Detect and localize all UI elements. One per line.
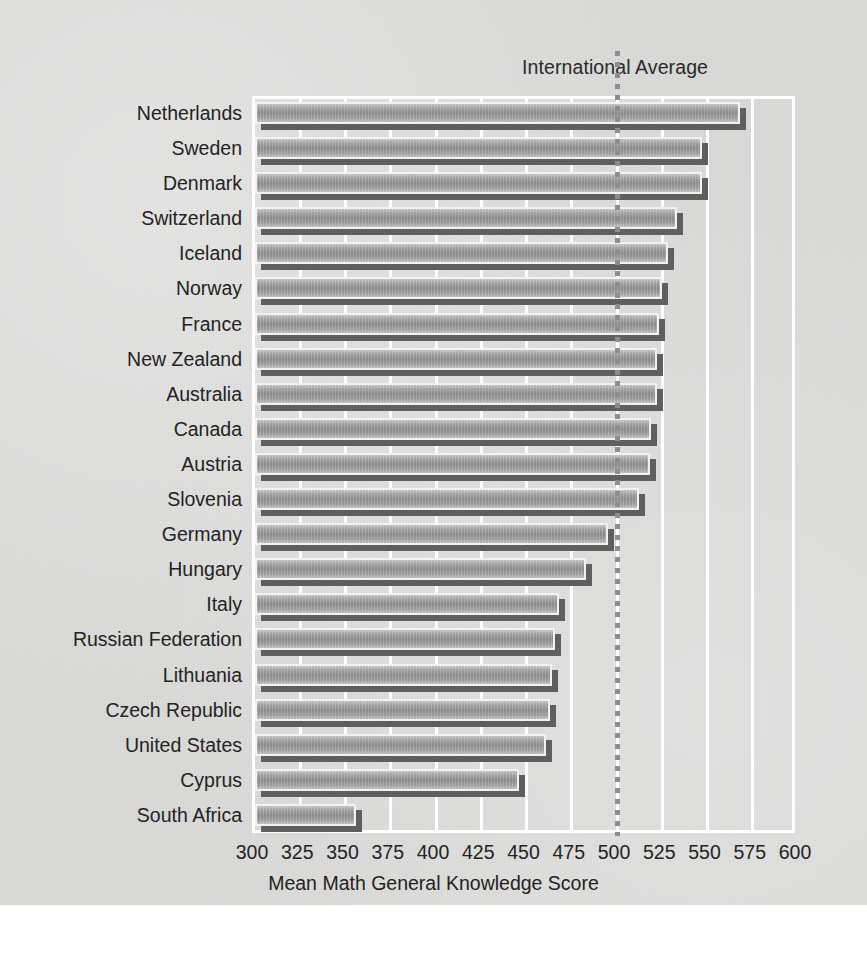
bar-cyprus[interactable]	[255, 769, 525, 797]
bar-face	[255, 313, 659, 335]
bar-row	[255, 99, 798, 133]
bar-face	[255, 172, 702, 194]
category-label-switzerland: Switzerland	[0, 201, 242, 236]
bar-face	[255, 383, 657, 405]
bar-united-states[interactable]	[255, 734, 552, 762]
bar-face	[255, 137, 702, 159]
bar-row	[255, 169, 798, 203]
bar-face	[255, 593, 559, 615]
bar-sweden[interactable]	[255, 137, 708, 165]
category-label-lithuania: Lithuania	[0, 658, 242, 693]
bar-face	[255, 418, 651, 440]
category-label-united-states: United States	[0, 728, 242, 763]
bar-south-africa[interactable]	[255, 804, 362, 832]
category-label-new-zealand: New Zealand	[0, 342, 242, 377]
x-tick-600: 600	[765, 841, 825, 864]
bar-france[interactable]	[255, 313, 665, 341]
plot-area	[252, 96, 795, 833]
bar-row	[255, 450, 798, 484]
bar-face	[255, 804, 356, 826]
category-label-france: France	[0, 307, 242, 342]
bar-italy[interactable]	[255, 593, 565, 621]
bar-face	[255, 348, 657, 370]
category-label-germany: Germany	[0, 517, 242, 552]
bar-face	[255, 558, 586, 580]
bar-row	[255, 485, 798, 519]
category-label-italy: Italy	[0, 587, 242, 622]
category-label-sweden: Sweden	[0, 131, 242, 166]
bar-face	[255, 769, 519, 791]
bar-denmark[interactable]	[255, 172, 708, 200]
bar-face	[255, 664, 552, 686]
bar-slovenia[interactable]	[255, 488, 645, 516]
bar-row	[255, 801, 798, 835]
bar-face	[255, 242, 668, 264]
bar-netherlands[interactable]	[255, 102, 746, 130]
bar-row	[255, 274, 798, 308]
category-label-hungary: Hungary	[0, 552, 242, 587]
bar-row	[255, 696, 798, 730]
bar-row	[255, 204, 798, 238]
bar-face	[255, 453, 650, 475]
bar-new-zealand[interactable]	[255, 348, 663, 376]
bar-hungary[interactable]	[255, 558, 592, 586]
bar-row	[255, 345, 798, 379]
bar-face	[255, 488, 639, 510]
bar-iceland[interactable]	[255, 242, 674, 270]
bar-face	[255, 523, 608, 545]
bar-australia[interactable]	[255, 383, 663, 411]
bar-norway[interactable]	[255, 277, 668, 305]
bar-face	[255, 628, 555, 650]
bar-row	[255, 310, 798, 344]
category-label-netherlands: Netherlands	[0, 96, 242, 131]
category-label-denmark: Denmark	[0, 166, 242, 201]
bar-czech-republic[interactable]	[255, 699, 556, 727]
category-label-slovenia: Slovenia	[0, 482, 242, 517]
bar-russian-federation[interactable]	[255, 628, 561, 656]
bar-germany[interactable]	[255, 523, 614, 551]
bar-row	[255, 661, 798, 695]
bar-row	[255, 625, 798, 659]
category-label-czech-republic: Czech Republic	[0, 693, 242, 728]
category-label-australia: Australia	[0, 377, 242, 412]
bar-row	[255, 239, 798, 273]
x-axis-title: Mean Math General Knowledge Score	[0, 872, 867, 895]
international-average-reference-line	[615, 51, 620, 836]
bar-lithuania[interactable]	[255, 664, 558, 692]
category-label-austria: Austria	[0, 447, 242, 482]
bar-face	[255, 207, 677, 229]
bar-row	[255, 766, 798, 800]
category-label-norway: Norway	[0, 271, 242, 306]
bar-row	[255, 731, 798, 765]
bar-austria[interactable]	[255, 453, 656, 481]
bar-row	[255, 134, 798, 168]
category-label-canada: Canada	[0, 412, 242, 447]
category-label-russian-federation: Russian Federation	[0, 622, 242, 657]
bar-face	[255, 734, 546, 756]
bar-face	[255, 102, 740, 124]
bar-face	[255, 699, 550, 721]
bar-row	[255, 555, 798, 589]
bar-face	[255, 277, 662, 299]
bar-row	[255, 590, 798, 624]
category-label-iceland: Iceland	[0, 236, 242, 271]
bar-row	[255, 380, 798, 414]
bar-row	[255, 415, 798, 449]
bar-canada[interactable]	[255, 418, 657, 446]
figure-root: International Average NetherlandsSwedenD…	[0, 0, 867, 958]
category-label-cyprus: Cyprus	[0, 763, 242, 798]
category-label-south-africa: South Africa	[0, 798, 242, 833]
bar-row	[255, 520, 798, 554]
